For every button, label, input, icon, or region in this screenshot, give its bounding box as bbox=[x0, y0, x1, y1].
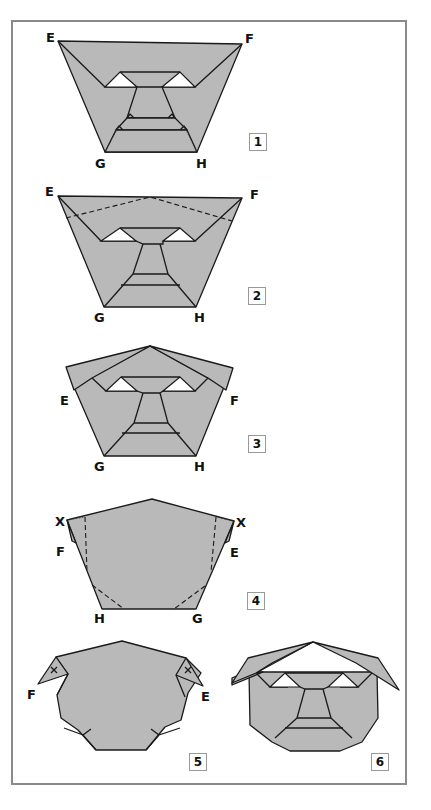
step-6-diagram bbox=[232, 642, 399, 751]
label-f: F bbox=[230, 393, 239, 408]
label-g: G bbox=[192, 611, 203, 626]
step-number-6: 6 bbox=[371, 753, 389, 771]
label-h: H bbox=[194, 459, 205, 474]
label-f: F bbox=[27, 687, 36, 702]
step-number-2: 2 bbox=[248, 287, 266, 305]
label-e: E bbox=[230, 545, 239, 560]
step-number-4: 4 bbox=[247, 592, 265, 610]
label-f: F bbox=[250, 187, 259, 202]
step-4-diagram: X X F E H G bbox=[55, 499, 246, 626]
label-g: G bbox=[94, 310, 105, 325]
step-1-diagram: E F G H bbox=[46, 30, 254, 171]
label-f: F bbox=[245, 31, 254, 46]
label-x-right: X bbox=[236, 515, 246, 530]
label-h: H bbox=[94, 611, 105, 626]
label-x-left: X bbox=[55, 514, 65, 529]
step-5-diagram: F E bbox=[27, 641, 210, 750]
step-number-1: 1 bbox=[249, 133, 267, 151]
label-e: E bbox=[60, 393, 69, 408]
step-3-diagram: E F G H bbox=[60, 346, 239, 474]
step-2-diagram: E F G H bbox=[45, 184, 259, 325]
label-e: E bbox=[45, 184, 54, 199]
label-h: H bbox=[196, 156, 207, 171]
label-g: G bbox=[94, 459, 105, 474]
step-number-3: 3 bbox=[248, 435, 266, 453]
origami-instructions: E F G H E F G H bbox=[0, 0, 431, 810]
label-h: H bbox=[194, 310, 205, 325]
label-f: F bbox=[56, 544, 65, 559]
label-g: G bbox=[95, 156, 106, 171]
label-e: E bbox=[46, 30, 55, 45]
step-number-5: 5 bbox=[189, 753, 207, 771]
label-e: E bbox=[201, 689, 210, 704]
